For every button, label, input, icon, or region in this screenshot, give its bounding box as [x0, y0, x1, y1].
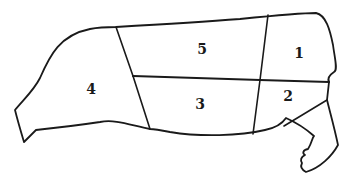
region-label-2: 2	[283, 88, 293, 104]
region-label-1: 1	[294, 45, 304, 61]
divider-5-1	[260, 15, 268, 80]
region-label-5: 5	[197, 41, 207, 57]
region-label-4: 4	[86, 81, 96, 97]
divider-5-3	[133, 76, 329, 82]
divider-3-2	[253, 80, 260, 134]
divider-4-5	[116, 27, 150, 129]
cut-regions-diagram: 1 2 3 4 5	[0, 0, 351, 185]
region-label-3: 3	[195, 96, 205, 112]
